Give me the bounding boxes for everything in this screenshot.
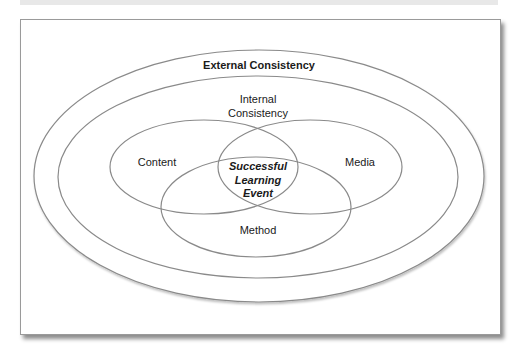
center-label-line3: Event (243, 187, 274, 199)
method-label: Method (240, 224, 277, 236)
internal-consistency-label-line1: Internal (240, 93, 277, 105)
media-label: Media (345, 156, 376, 168)
center-label-line2: Learning (235, 174, 282, 186)
external-consistency-label: External Consistency (203, 59, 316, 71)
consistency-venn-diagram: External Consistency Internal Consistenc… (0, 0, 525, 358)
center-label-line1: Successful (229, 160, 288, 172)
internal-consistency-label-line2: Consistency (228, 107, 288, 119)
content-label: Content (138, 156, 177, 168)
